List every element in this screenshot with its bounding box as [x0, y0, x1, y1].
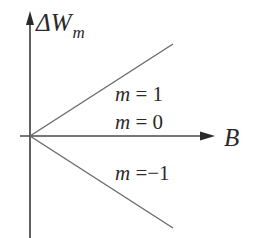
label-val: 0 [153, 110, 164, 134]
label-val: 1 [153, 82, 164, 106]
label-m-plus-1: m = 1 [115, 84, 163, 105]
x-axis-arrow-icon [200, 132, 215, 141]
label-val: −1 [147, 161, 169, 185]
label-m-minus-1: m =−1 [115, 163, 170, 184]
label-eq: = [130, 161, 147, 185]
label-m-zero: m = 0 [115, 112, 163, 133]
label-eq: = [130, 110, 152, 134]
label-var: m [115, 82, 130, 106]
label-var: m [115, 110, 130, 134]
y-axis-label: ΔWm [36, 10, 85, 35]
label-eq: = [130, 82, 152, 106]
y-axis-symbol: ΔW [36, 9, 72, 36]
y-axis-subscript: m [73, 23, 85, 42]
label-var: m [115, 161, 130, 185]
x-axis-label: B [224, 125, 239, 150]
y-axis-arrow-icon [26, 11, 34, 25]
